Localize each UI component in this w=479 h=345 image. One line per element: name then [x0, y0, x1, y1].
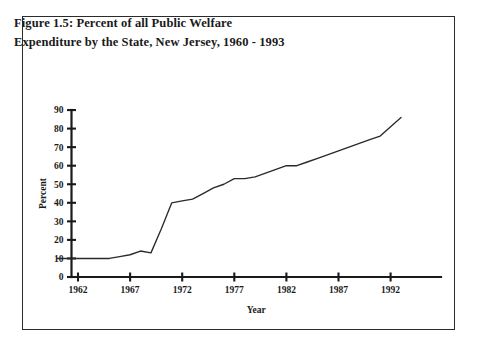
line-chart: 0102030405060708090 19621967197219771982… — [0, 0, 479, 345]
x-tick-label: 1967 — [121, 285, 140, 295]
y-tick-label: 90 — [54, 105, 64, 115]
y-axis-title: Percent — [38, 177, 48, 209]
x-tick-label: 1962 — [69, 285, 88, 295]
x-tick-label: 1972 — [173, 285, 192, 295]
y-tick-label: 50 — [54, 180, 64, 190]
x-tick-label: 1987 — [329, 285, 348, 295]
y-tick-label: 40 — [54, 198, 64, 208]
x-tick-label: 1982 — [277, 285, 296, 295]
x-tick-label: 1977 — [225, 285, 244, 295]
x-axis-title: Year — [247, 305, 267, 315]
y-tick-label: 60 — [54, 161, 64, 171]
y-tick-label: 70 — [54, 143, 64, 153]
y-axis-ticks: 0102030405060708090 — [54, 105, 76, 282]
y-tick-label: 80 — [54, 124, 64, 134]
y-tick-label: 30 — [54, 217, 64, 227]
data-series-line — [57, 117, 401, 258]
y-tick-label: 0 — [59, 272, 64, 282]
chart-area: 0102030405060708090 19621967197219771982… — [0, 0, 479, 345]
x-axis-ticks: 1962196719721977198219871992 — [69, 273, 401, 296]
y-tick-label: 20 — [54, 235, 64, 245]
x-tick-label: 1992 — [381, 285, 400, 295]
